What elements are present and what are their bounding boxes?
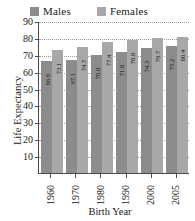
x-tick-mark <box>75 174 76 178</box>
bar-value-label: 80.4 <box>179 50 186 61</box>
y-tick-label: 80 <box>23 34 33 44</box>
x-tick-label: 1970 <box>71 185 81 205</box>
bar[interactable]: 77.4 <box>102 42 113 173</box>
bar[interactable]: 80.4 <box>177 37 188 173</box>
x-tick-mark <box>100 174 101 178</box>
bar-group: 66.673.1 <box>41 22 63 173</box>
x-tick: 1970 <box>64 174 87 206</box>
x-axis-ticks: 196019701980199020002005 <box>38 174 189 206</box>
y-tick-label: 90 <box>23 17 33 27</box>
x-tick-label: 2000 <box>146 185 156 205</box>
y-tick-label: 30 <box>23 118 33 128</box>
y-tick-label: 10 <box>23 152 33 162</box>
bar-value-label: 74.7 <box>79 60 86 71</box>
y-tick-label: 50 <box>23 85 33 95</box>
x-tick: 2000 <box>140 174 163 206</box>
legend-entry-males[interactable]: Males <box>30 6 71 17</box>
legend-label-females: Females <box>110 6 148 17</box>
x-tick: 2005 <box>165 174 188 206</box>
y-tick-mark <box>35 123 39 124</box>
x-tick-mark <box>126 174 127 178</box>
x-tick-mark <box>50 174 51 178</box>
bar-group: 70.077.4 <box>91 22 113 173</box>
y-tick-mark <box>35 56 39 57</box>
bar-value-label: 66.6 <box>43 73 50 84</box>
y-tick-mark <box>35 22 39 23</box>
bar[interactable]: 73.1 <box>52 50 63 173</box>
x-tick-label: 1960 <box>46 185 56 205</box>
plot-area: 908070605040302010 66.673.167.174.770.07… <box>38 22 189 174</box>
bar-value-label: 77.4 <box>104 55 111 66</box>
y-tick-mark <box>35 39 39 40</box>
y-tick-label: 60 <box>23 68 33 78</box>
legend-swatch-females <box>97 7 106 16</box>
bar-value-label: 74.3 <box>143 60 150 71</box>
bar-group: 75.280.4 <box>166 22 188 173</box>
y-tick-mark <box>35 73 39 74</box>
x-tick-label: 1980 <box>96 185 106 205</box>
y-tick-mark <box>35 90 39 91</box>
chart-legend: Males Females <box>30 4 190 18</box>
bar[interactable]: 70.0 <box>91 55 102 173</box>
bar-value-label: 79.7 <box>154 51 161 62</box>
bar[interactable]: 67.1 <box>66 60 77 173</box>
y-tick-mark <box>35 106 39 107</box>
bar[interactable]: 79.7 <box>152 38 163 173</box>
y-tick-label: 70 <box>23 51 33 61</box>
x-tick: 1960 <box>39 174 62 206</box>
bar-group: 74.379.7 <box>141 22 163 173</box>
bar[interactable]: 74.7 <box>77 47 88 173</box>
bar-value-label: 78.8 <box>129 53 136 64</box>
bar[interactable]: 71.8 <box>116 52 127 173</box>
y-tick-label: 40 <box>23 101 33 111</box>
y-axis-title: Life Expectancy <box>12 56 23 166</box>
bar-value-label: 71.8 <box>118 65 125 76</box>
x-tick: 1980 <box>89 174 112 206</box>
bar-group: 71.878.8 <box>116 22 138 173</box>
bar[interactable]: 66.6 <box>41 61 52 173</box>
x-tick-mark <box>151 174 152 178</box>
y-tick-label: 20 <box>23 135 33 145</box>
legend-swatch-males <box>30 7 39 16</box>
bar-value-label: 67.1 <box>68 73 75 84</box>
bar-groups: 66.673.167.174.770.077.471.878.874.379.7… <box>40 22 189 173</box>
x-tick: 1990 <box>115 174 138 206</box>
bar[interactable]: 74.3 <box>141 48 152 173</box>
bar[interactable]: 78.8 <box>127 40 138 173</box>
bar[interactable]: 75.2 <box>166 46 177 173</box>
legend-label-males: Males <box>43 6 71 17</box>
y-tick-mark <box>35 157 39 158</box>
bar-value-label: 75.2 <box>168 59 175 70</box>
legend-entry-females[interactable]: Females <box>97 6 148 17</box>
x-axis-title: Birth Year <box>30 206 190 217</box>
bar-value-label: 73.1 <box>54 62 61 73</box>
x-tick-mark <box>176 174 177 178</box>
bar-group: 67.174.7 <box>66 22 88 173</box>
bar-value-label: 70.0 <box>93 68 100 79</box>
y-tick-mark <box>35 140 39 141</box>
x-tick-label: 2005 <box>171 185 181 205</box>
bar-chart: Males Females Life Expectancy 9080706050… <box>0 0 195 221</box>
x-tick-label: 1990 <box>121 185 131 205</box>
